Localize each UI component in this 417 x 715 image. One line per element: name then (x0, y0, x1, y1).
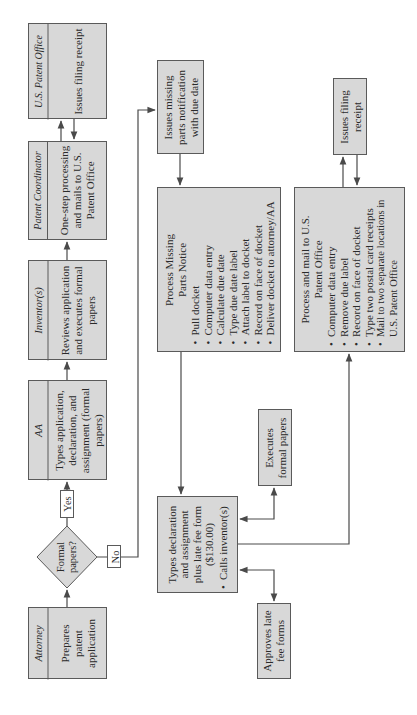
step-item: Type two postal card receipts (363, 193, 376, 346)
yes-text: Yes (62, 496, 73, 511)
step-item: Calls inventor(s) (217, 500, 230, 589)
box-issues-missing-parts: Issues missing parts notification with d… (157, 60, 204, 154)
step-list: Calls inventor(s) (217, 500, 230, 589)
no-text: No (109, 550, 120, 563)
step-item: Record on face of docket (350, 193, 363, 346)
box-process-missing-parts: Process Missing Parts Notice Pull docket… (157, 187, 281, 352)
box-text: Issues missing parts notification with d… (161, 64, 200, 150)
step-item: Pull docket (188, 195, 201, 344)
box-text: Executes formal papers (262, 413, 288, 482)
lane-us-patent-office: U.S. Patent Office Issues filing receipt (28, 23, 107, 119)
box-executes-formal-papers: Executes formal papers (258, 409, 292, 486)
box-text: Issues filing receipt (337, 82, 363, 151)
yes-label: Yes (60, 490, 74, 518)
box-title: Process Missing Parts Notice (162, 195, 187, 344)
step-item: Remove due label (338, 193, 351, 346)
decision-question: Formal papers? (55, 532, 79, 582)
lane-action-text: Types application, declaration, and assi… (48, 380, 107, 480)
lane-action-text: One-step processing and mails to U.S. Pa… (48, 141, 107, 240)
step-item: Type due date label (226, 195, 239, 344)
lane-attorney: Attorney Prepares patent application (28, 607, 107, 679)
step-item: Computer data entry (325, 193, 338, 346)
box-title: Process and mail to U.S. Patent Office (299, 193, 324, 346)
lane-aa: AA Types application, declaration, and a… (28, 380, 107, 480)
box-approves-late-fee: Approves late fee forms (257, 603, 291, 679)
box-process-and-mail: Process and mail to U.S. Patent Office C… (294, 187, 405, 352)
lane-patent-coordinator: Patent Coordinator One-step processing a… (28, 141, 107, 240)
step-item: Mail to two separate locations in U.S. P… (375, 193, 400, 346)
lane-role-label: Patent Coordinator (28, 141, 48, 240)
lane-role-label: AA (28, 380, 48, 480)
step-item: Attach label to docket (238, 195, 251, 344)
box-issues-filing-receipt: Issues filing receipt (333, 78, 367, 155)
step-item: Record on face of docket (251, 195, 264, 344)
decision-label: Formal papers? (52, 532, 82, 582)
lane-role-label: Attorney (28, 607, 48, 679)
box-text: Approves late fee forms (261, 607, 287, 675)
lane-role-label: U.S. Patent Office (28, 23, 48, 119)
flowchart-canvas: Attorney Prepares patent application AA … (0, 0, 417, 715)
lane-inventor: Inventor(s) Reviews application and exec… (28, 260, 107, 360)
lane-action-text: Reviews application and executes formal … (48, 260, 107, 360)
step-list: Computer data entry Remove due label Rec… (325, 193, 400, 346)
box-title: Types declaration and assignment plus la… (166, 500, 216, 589)
step-list: Pull docket Computer data entry Calculat… (188, 195, 276, 344)
lane-role-label: Inventor(s) (28, 260, 48, 360)
lane-action-text: Prepares patent application (48, 607, 107, 679)
box-types-declaration: Types declaration and assignment plus la… (157, 496, 238, 593)
step-item: Deliver docket to attorney/AA (263, 195, 276, 344)
step-item: Computer data entry (201, 195, 214, 344)
lane-action-text: Issues filing receipt (48, 23, 107, 119)
step-item: Calculate due date (213, 195, 226, 344)
no-label: No (107, 545, 121, 568)
